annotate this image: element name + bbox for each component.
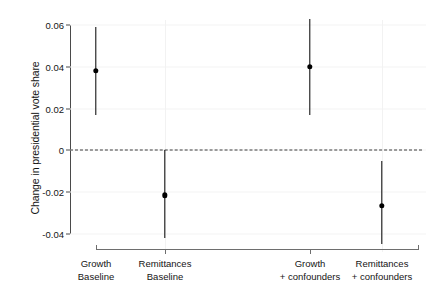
data-point-marker [307, 64, 312, 69]
x-tick-mark [310, 249, 311, 254]
category-label-line2: + confounders [280, 271, 340, 284]
x-axis: GrowthBaselineRemittancesBaselineGrowth+… [70, 249, 422, 250]
figure-container: Change in presidential vote share 0.060.… [0, 0, 426, 301]
y-tick-mark [66, 66, 70, 67]
horizontal-gridline [70, 108, 426, 109]
horizontal-gridline [70, 66, 426, 67]
x-axis-line [96, 249, 418, 250]
zero-reference-line [70, 150, 422, 151]
y-axis-title: Change in presidential vote share [29, 28, 41, 248]
horizontal-gridline [70, 25, 426, 26]
plot-area: 0.060.040.020-0.02-0.04 [70, 20, 422, 252]
y-tick-label: -0.02 [42, 187, 64, 198]
y-tick-label: -0.04 [42, 229, 64, 240]
category-label-line1: Remittances [352, 258, 412, 271]
category-label-line1: Growth [280, 258, 340, 271]
y-axis-line [70, 25, 71, 234]
category-label-line2: Baseline [139, 271, 192, 284]
data-point-marker [93, 68, 98, 73]
y-tick-mark [66, 234, 70, 235]
y-tick-label: 0 [59, 145, 64, 156]
x-tick-mark [165, 249, 166, 254]
category-label-line1: Growth [78, 258, 114, 271]
horizontal-gridline [70, 192, 426, 193]
y-tick-mark [66, 108, 70, 109]
category-label-line1: Remittances [139, 258, 192, 271]
x-axis-category-label: Remittances+ confounders [352, 258, 412, 283]
y-tick-label: 0.04 [46, 61, 65, 72]
y-tick-label: 0.06 [46, 20, 65, 31]
y-tick-mark [66, 192, 70, 193]
x-axis-end-cap [96, 245, 97, 250]
horizontal-gridline [70, 234, 426, 235]
x-axis-end-cap [418, 245, 419, 250]
category-label-line2: + confounders [352, 271, 412, 284]
x-axis-category-label: RemittancesBaseline [139, 258, 192, 283]
x-axis-category-label: GrowthBaseline [78, 258, 114, 283]
data-point-marker [162, 193, 167, 198]
category-label-line2: Baseline [78, 271, 114, 284]
data-point-marker [379, 203, 384, 208]
y-tick-mark [66, 25, 70, 26]
y-tick-label: 0.02 [46, 103, 65, 114]
x-axis-category-label: Growth+ confounders [280, 258, 340, 283]
